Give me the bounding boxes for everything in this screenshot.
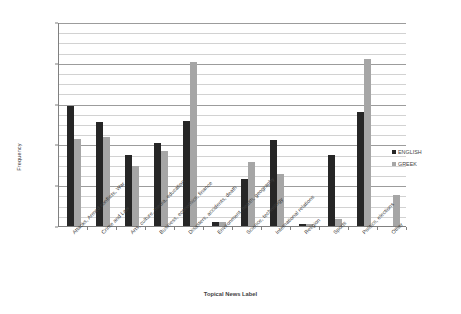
x-tick-label: Environment, health, geography: [216, 176, 275, 235]
x-tick-label: Business, economics, finance: [158, 180, 213, 235]
english-swatch-icon: [392, 150, 396, 154]
x-tick-label: Attacks, Armed conflicts, War: [71, 181, 126, 236]
chart-legend: ENGLISHGREEK: [392, 149, 422, 167]
bar-chart: Frequency 00.050.10.150.20.25 Attacks, A…: [0, 0, 461, 314]
greek-swatch-icon: [392, 162, 396, 166]
x-tick-label: Sports: [332, 220, 347, 235]
x-tick-label: Disasters, accidents, death: [187, 184, 238, 235]
x-tick-label: Crime and Law: [100, 205, 130, 235]
x-axis-title: Topical News Label: [0, 291, 461, 297]
legend-label: GREEK: [398, 161, 417, 167]
legend-item: ENGLISH: [392, 149, 422, 155]
x-tick-label: Religion: [303, 217, 321, 235]
legend-label: ENGLISH: [398, 149, 422, 155]
legend-item: GREEK: [392, 161, 422, 167]
x-tick-label: Other: [390, 221, 404, 235]
x-tick-label: Arts, culture, media, education: [129, 178, 186, 235]
